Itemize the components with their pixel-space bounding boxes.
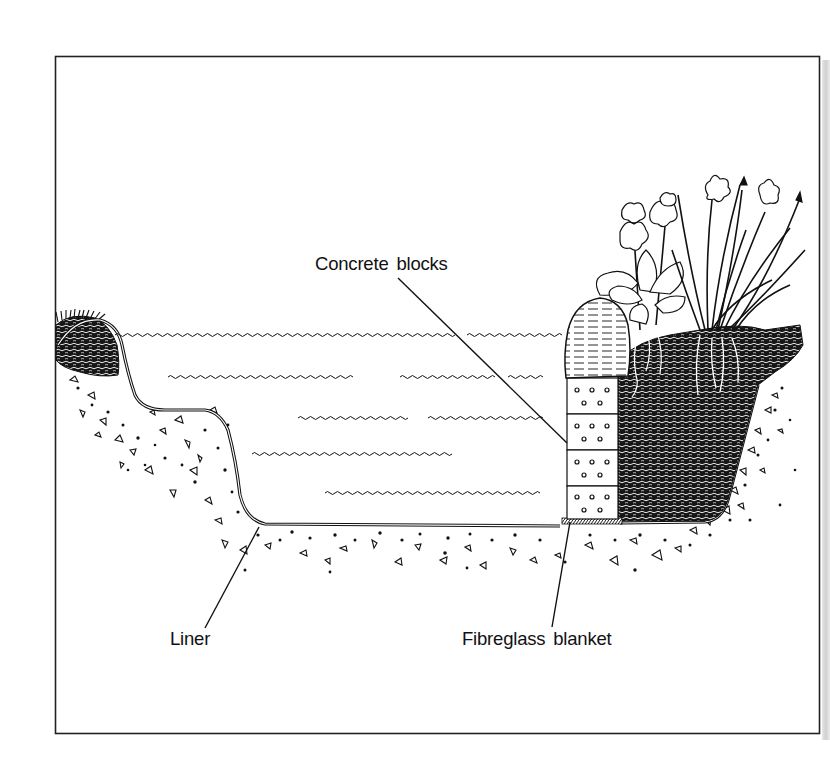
label-liner: Liner <box>170 630 210 649</box>
label-fibreglass-blanket: Fibreglass blanket <box>462 630 612 649</box>
leader-liner <box>205 527 259 628</box>
coping-stone <box>565 298 630 378</box>
pond-cross-section-diagram <box>0 0 830 765</box>
iris-plant <box>672 185 805 330</box>
planting-soil <box>618 325 803 521</box>
iris-flowers <box>705 175 802 204</box>
water-surface <box>115 334 455 337</box>
concrete-block <box>567 414 618 450</box>
leader-fibreglass-blanket <box>552 522 570 627</box>
concrete-block <box>567 450 618 486</box>
leader-concrete-blocks <box>398 278 567 443</box>
concrete-block <box>567 486 618 519</box>
concrete-block <box>567 378 618 414</box>
water-surface-lines <box>115 334 562 495</box>
leader-lines <box>205 278 570 628</box>
label-concrete-blocks: Concrete blocks <box>315 255 448 274</box>
